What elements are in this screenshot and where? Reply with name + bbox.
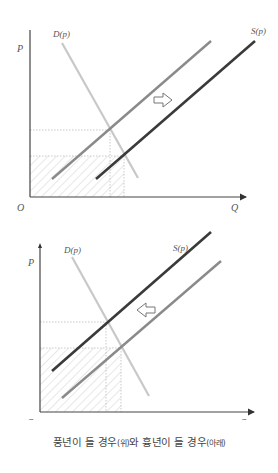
supply-label: S(p) xyxy=(251,26,266,36)
y-axis-label: P xyxy=(27,257,34,268)
caption-part-top: (위) xyxy=(117,439,129,448)
shift-left-arrow-icon xyxy=(137,303,155,317)
shift-right-arrow-icon xyxy=(154,93,172,107)
x-axis-label: Q xyxy=(240,417,248,420)
diagram-canvas: P Q O D(p) S(p) xyxy=(0,0,278,220)
supply-curve-original xyxy=(52,41,211,179)
caption-part-bumper: 풍년이 들 경우 xyxy=(53,436,117,448)
demand-label: D(p) xyxy=(63,245,81,255)
caption-part-poor: 와 흉년이 들 경우 xyxy=(129,436,206,448)
y-axis-label: P xyxy=(16,43,23,54)
figure-caption: 풍년이 들 경우(위)와 흉년이 들 경우(아래) xyxy=(0,434,278,449)
demand-label: D(p) xyxy=(52,29,70,39)
y-axis-arrow-icon xyxy=(38,243,42,248)
diagram-canvas: P Q O D(p) S(p) xyxy=(0,220,278,420)
supply-demand-diagram-poor-harvest: P Q O D(p) S(p) xyxy=(0,220,278,420)
supply-demand-diagram-bumper-harvest: P Q O D(p) S(p) xyxy=(0,0,278,220)
x-axis-label: Q xyxy=(231,202,239,213)
caption-part-bottom: (아래) xyxy=(206,439,225,448)
origin-label: O xyxy=(17,202,24,213)
supply-curve-shifted xyxy=(96,41,255,179)
origin-label: O xyxy=(27,417,34,420)
supply-label: S(p) xyxy=(173,243,188,253)
